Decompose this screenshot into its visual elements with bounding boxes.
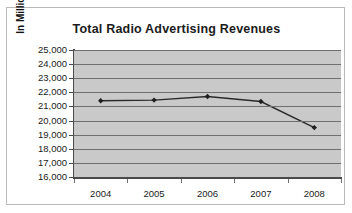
gridline bbox=[74, 149, 341, 150]
x-tick-mark bbox=[181, 179, 182, 183]
y-tick-label: 20,000 bbox=[13, 115, 67, 126]
data-point-marker bbox=[205, 94, 210, 99]
y-tick-mark bbox=[69, 64, 74, 65]
x-tick-label: 2008 bbox=[291, 188, 337, 199]
y-tick-label: 21,000 bbox=[13, 100, 67, 111]
gridline bbox=[74, 163, 341, 164]
chart-frame: Total Radio Advertising Revenues In Mill… bbox=[6, 7, 345, 205]
x-tick-label: 2007 bbox=[238, 188, 284, 199]
y-tick-label: 17,000 bbox=[13, 157, 67, 168]
gridline bbox=[74, 106, 341, 107]
y-tick-label: 24,000 bbox=[13, 58, 67, 69]
y-tick-mark bbox=[69, 121, 74, 122]
y-tick-label: 16,000 bbox=[13, 171, 67, 182]
y-tick-label: 18,000 bbox=[13, 143, 67, 154]
y-tick-mark bbox=[69, 135, 74, 136]
data-point-marker bbox=[258, 99, 263, 104]
x-tick-mark bbox=[74, 179, 75, 183]
x-tick-label: 2004 bbox=[78, 188, 124, 199]
y-tick-mark bbox=[69, 78, 74, 79]
y-tick-mark bbox=[69, 106, 74, 107]
y-axis-tick-labels: 25,00024,00023,00022,00021,00020,00019,0… bbox=[7, 8, 67, 213]
y-tick-label: 23,000 bbox=[13, 72, 67, 83]
data-series bbox=[74, 50, 341, 177]
gridline bbox=[74, 50, 341, 51]
x-tick-mark bbox=[341, 179, 342, 183]
data-point-marker bbox=[151, 97, 156, 102]
y-tick-mark bbox=[69, 177, 74, 178]
x-tick-mark bbox=[288, 179, 289, 183]
data-point-marker bbox=[312, 125, 317, 130]
x-axis-line bbox=[73, 177, 342, 179]
y-tick-label: 19,000 bbox=[13, 129, 67, 140]
y-tick-mark bbox=[69, 92, 74, 93]
series-line bbox=[101, 97, 315, 128]
series-markers bbox=[98, 94, 317, 130]
gridline bbox=[74, 78, 341, 79]
data-point-marker bbox=[98, 98, 103, 103]
gridline bbox=[74, 64, 341, 65]
plot-area bbox=[74, 50, 341, 177]
y-tick-label: 22,000 bbox=[13, 86, 67, 97]
y-tick-mark bbox=[69, 163, 74, 164]
y-tick-mark bbox=[69, 50, 74, 51]
x-tick-label: 2005 bbox=[131, 188, 177, 199]
gridline bbox=[74, 121, 341, 122]
y-tick-mark bbox=[69, 149, 74, 150]
gridline bbox=[74, 135, 341, 136]
gridline bbox=[74, 92, 341, 93]
x-tick-mark bbox=[127, 179, 128, 183]
x-tick-label: 2006 bbox=[185, 188, 231, 199]
y-tick-label: 25,000 bbox=[13, 44, 67, 55]
x-tick-mark bbox=[234, 179, 235, 183]
